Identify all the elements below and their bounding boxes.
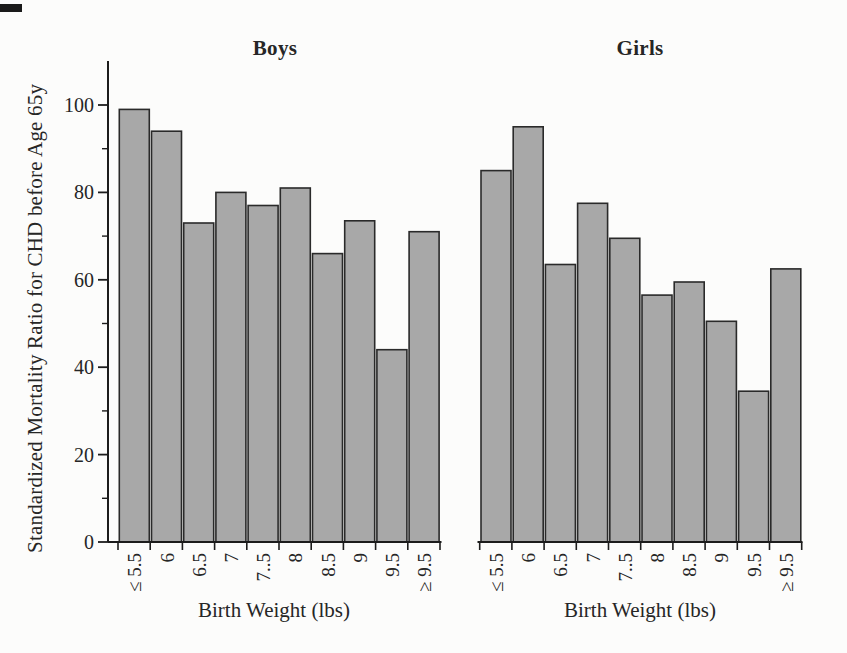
- bar-girls-6: [674, 282, 704, 542]
- bar-boys-7: [345, 221, 375, 542]
- x-axis-title-girls: Birth Weight (lbs): [530, 598, 750, 623]
- bar-girls-3: [578, 203, 608, 542]
- y-tick-label-80: 80: [74, 181, 94, 203]
- x-tick-label-boys-7: 9: [350, 553, 371, 563]
- x-tick-label-boys-0: ≤ 5.5: [124, 553, 145, 592]
- bar-boys-6: [313, 254, 343, 542]
- x-tick-label-boys-5: 8: [285, 553, 306, 563]
- chart-page: Standardized Mortality Ratio for CHD bef…: [0, 0, 847, 653]
- x-tick-label-girls-5: 8: [647, 553, 668, 563]
- x-tick-label-girls-2: 6.5: [550, 553, 571, 577]
- y-tick-label-100: 100: [64, 94, 94, 116]
- x-tick-label-boys-2: 6.5: [189, 553, 210, 577]
- bar-boys-8: [377, 350, 407, 542]
- x-tick-label-girls-9: ≥ 9.5: [776, 553, 797, 592]
- y-tick-label-20: 20: [74, 444, 94, 466]
- x-tick-label-boys-8: 9.5: [382, 553, 403, 577]
- bar-girls-4: [610, 238, 640, 542]
- x-tick-label-girls-8: 9.5: [744, 553, 765, 577]
- x-tick-label-girls-7: 9: [711, 553, 732, 563]
- bar-chart-canvas: ≤ 5.566.577..588.599.5≥ 9.5020406080100≤…: [0, 0, 847, 653]
- bar-boys-0: [119, 109, 149, 542]
- x-tick-label-girls-4: 7..5: [615, 553, 636, 582]
- x-tick-label-girls-3: 7: [583, 553, 604, 563]
- y-tick-label-0: 0: [84, 531, 94, 553]
- y-tick-label-60: 60: [74, 269, 94, 291]
- bar-boys-3: [216, 192, 246, 542]
- bar-girls-7: [706, 321, 736, 542]
- x-tick-label-boys-4: 7..5: [253, 553, 274, 582]
- bar-girls-8: [739, 391, 769, 542]
- bar-boys-9: [409, 232, 439, 542]
- bar-girls-2: [545, 265, 575, 543]
- x-tick-label-girls-6: 8.5: [679, 553, 700, 577]
- x-tick-label-boys-3: 7: [221, 553, 242, 563]
- bar-boys-5: [280, 188, 310, 542]
- bar-boys-2: [184, 223, 214, 542]
- bar-boys-4: [248, 206, 278, 543]
- bar-girls-1: [513, 127, 543, 542]
- bar-girls-5: [642, 295, 672, 542]
- bar-girls-9: [771, 269, 801, 542]
- bar-boys-1: [152, 131, 182, 542]
- x-tick-label-girls-0: ≤ 5.5: [486, 553, 507, 592]
- bar-girls-0: [481, 171, 511, 542]
- y-tick-label-40: 40: [74, 356, 94, 378]
- x-tick-label-girls-1: 6: [518, 553, 539, 563]
- x-axis-title-boys: Birth Weight (lbs): [164, 598, 384, 623]
- x-tick-label-boys-6: 8.5: [318, 553, 339, 577]
- x-tick-label-boys-9: ≥ 9.5: [414, 553, 435, 592]
- x-tick-label-boys-1: 6: [157, 553, 178, 563]
